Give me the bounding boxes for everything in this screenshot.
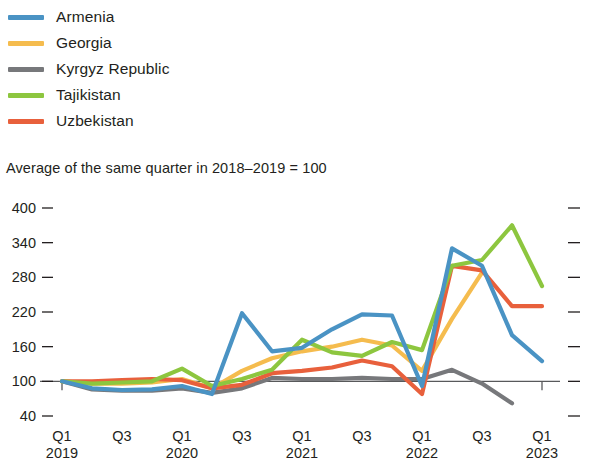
x-axis-tick-label: Q3: [232, 428, 251, 445]
plot-area: 40034028022016010040Q12019Q3Q12020Q3Q120…: [0, 0, 590, 468]
series-line-kyrgyz-republic: [62, 370, 512, 404]
series-line-uzbekistan: [62, 266, 542, 394]
x-axis-tick-label: Q12023: [526, 428, 558, 462]
x-axis-tick-label: Q3: [352, 428, 371, 445]
x-axis-year-label: 2022: [406, 445, 438, 462]
x-axis-tick-label: Q12021: [286, 428, 318, 462]
x-axis-quarter-label: Q3: [472, 428, 491, 445]
y-axis-tick-label: 220: [2, 304, 36, 320]
x-axis-tick-label: Q3: [112, 428, 131, 445]
y-axis-tick-label: 100: [2, 373, 36, 389]
x-axis-quarter-label: Q1: [526, 428, 558, 445]
x-axis-quarter-label: Q1: [286, 428, 318, 445]
x-axis-tick-label: Q12020: [166, 428, 198, 462]
series-line-tajikistan: [62, 225, 542, 386]
y-axis-tick-label: 400: [2, 200, 36, 216]
x-axis-year-label: 2020: [166, 445, 198, 462]
plot-svg: [0, 0, 590, 468]
x-axis-quarter-label: Q3: [112, 428, 131, 445]
x-axis-tick-label: Q12022: [406, 428, 438, 462]
x-axis-quarter-label: Q1: [46, 428, 78, 445]
x-axis-year-label: 2023: [526, 445, 558, 462]
x-axis-quarter-label: Q3: [352, 428, 371, 445]
y-axis-tick-label: 340: [2, 235, 36, 251]
x-axis-quarter-label: Q1: [166, 428, 198, 445]
x-axis-year-label: 2019: [46, 445, 78, 462]
y-axis-tick-label: 40: [2, 408, 36, 424]
y-axis-tick-label: 160: [2, 339, 36, 355]
y-axis-tick-label: 280: [2, 269, 36, 285]
x-axis-tick-label: Q3: [472, 428, 491, 445]
x-axis-year-label: 2021: [286, 445, 318, 462]
x-axis-quarter-label: Q3: [232, 428, 251, 445]
remittance-line-chart: Armenia Georgia Kyrgyz Republic Tajikist…: [0, 0, 590, 468]
x-axis-quarter-label: Q1: [406, 428, 438, 445]
x-axis-tick-label: Q12019: [46, 428, 78, 462]
